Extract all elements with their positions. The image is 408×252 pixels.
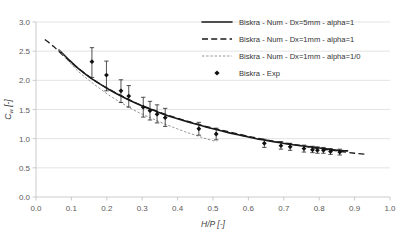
y-axis-title: Cw [-] [3, 99, 14, 120]
y-tick-label: 0.5 [19, 164, 31, 173]
x-tick-label: 0.9 [349, 204, 361, 213]
y-tick-label: 1.5 [19, 106, 31, 115]
chart-container: 0.00.51.01.52.02.53.0 0.00.10.20.30.40.5… [0, 0, 408, 252]
y-tick-label: 1.0 [19, 135, 31, 144]
x-tick-label: 0.7 [278, 204, 290, 213]
legend-label: Biskra - Num - Dx=1mm - alpha=1 [239, 35, 354, 44]
x-tick-label: 0.1 [66, 204, 78, 213]
x-axis-title: H/P [-] [201, 219, 225, 229]
y-tick-label: 0.0 [19, 193, 31, 202]
y-tick-label: 3.0 [19, 18, 31, 27]
scatter-line-chart: 0.00.51.01.52.02.53.0 0.00.10.20.30.40.5… [0, 0, 408, 252]
x-tick-label: 0.8 [314, 204, 326, 213]
x-tick-label: 0.2 [101, 204, 113, 213]
x-tick-label: 0.6 [243, 204, 255, 213]
legend-label: Biskra - Num - Dx=5mm - alpha=1 [239, 18, 354, 27]
x-tick-label: 1.0 [384, 204, 396, 213]
x-tick-label: 0.0 [30, 204, 42, 213]
y-tick-label: 2.0 [19, 76, 31, 85]
x-tick-label: 0.5 [207, 204, 219, 213]
x-tick-label: 0.4 [172, 204, 184, 213]
legend-label: Biskra - Exp [239, 69, 280, 78]
x-tick-label: 0.3 [137, 204, 149, 213]
y-axis-title-unit: [-] [3, 99, 13, 110]
y-tick-label: 2.5 [19, 47, 31, 56]
legend-label: Biskra - Num - Dx=1mm - alpha=1/0 [239, 52, 361, 61]
